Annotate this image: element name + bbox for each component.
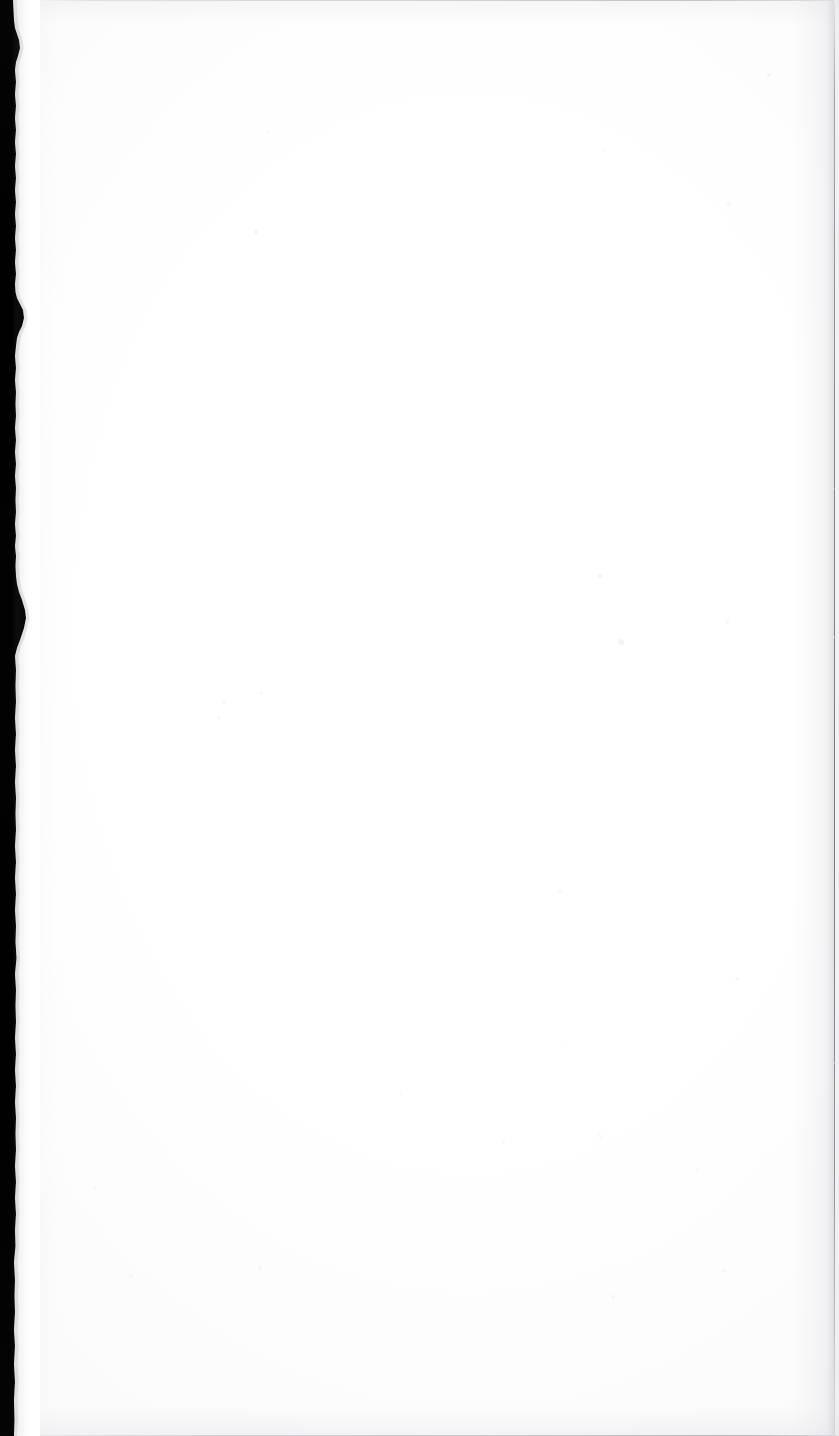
scanned-page: No printed text, headings, figures, page… <box>0 0 839 1436</box>
paper-surface <box>0 0 839 1436</box>
